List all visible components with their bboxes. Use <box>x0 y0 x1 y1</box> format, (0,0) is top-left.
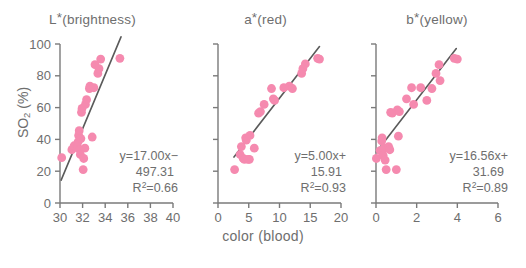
data-point <box>315 55 324 64</box>
data-point <box>267 84 276 93</box>
data-point <box>245 155 254 164</box>
data-point <box>409 100 418 109</box>
data-point <box>115 54 124 63</box>
x-axis-tick-label: 5 <box>245 210 252 225</box>
x-axis-tick-label: 0 <box>214 210 221 225</box>
x-axis-label: color (blood) <box>0 228 526 244</box>
equation-line-2: 31.69 <box>473 165 504 179</box>
x-axis-tick-label: 30 <box>53 210 67 225</box>
x-axis-tick-label: 2 <box>413 210 420 225</box>
data-point <box>80 144 89 153</box>
y-axis-tick-label: 40 <box>37 132 51 147</box>
data-point <box>382 165 391 174</box>
data-point <box>246 131 255 140</box>
x-axis-tick-label: 15 <box>303 210 317 225</box>
r-squared-label: R2=0.93 <box>301 180 346 195</box>
data-point <box>422 96 431 105</box>
data-point <box>416 83 425 92</box>
data-point <box>453 55 462 64</box>
x-axis-tick-label: 38 <box>143 210 157 225</box>
y-axis-tick-label: 0 <box>44 196 51 211</box>
x-axis-tick-label: 32 <box>75 210 89 225</box>
x-axis-tick-label: 4 <box>454 210 461 225</box>
data-point <box>381 156 390 165</box>
data-point <box>435 60 444 69</box>
data-point <box>428 84 437 93</box>
data-point <box>394 132 403 141</box>
y-axis-tick-label: 80 <box>37 68 51 83</box>
r-squared-label: R2=0.66 <box>133 180 178 195</box>
data-point <box>79 165 88 174</box>
x-axis-tick-label: 0 <box>372 210 379 225</box>
data-point <box>402 94 411 103</box>
data-point <box>77 134 86 143</box>
y-axis-tick-label: 100 <box>29 37 51 52</box>
x-axis-tick-label: 34 <box>98 210 112 225</box>
x-axis-tick-label: 36 <box>121 210 135 225</box>
y-axis-tick-label: 60 <box>37 100 51 115</box>
regression-line <box>61 37 121 180</box>
data-point <box>260 100 269 109</box>
data-point <box>75 126 84 135</box>
data-point <box>79 154 88 163</box>
data-point <box>88 133 97 142</box>
data-point <box>57 153 66 162</box>
x-axis-tick-label: 20 <box>334 210 348 225</box>
data-point <box>270 96 279 105</box>
equation-line-1: y=5.00x+ <box>295 149 346 163</box>
x-axis-tick-label: 10 <box>272 210 286 225</box>
data-point <box>392 165 401 174</box>
r-squared-label: R2=0.89 <box>463 180 508 195</box>
x-axis-tick-label: 6 <box>494 210 501 225</box>
data-point <box>96 55 105 64</box>
equation-line-1: y=16.56x+ <box>450 149 508 163</box>
data-point <box>436 76 445 85</box>
data-point <box>395 107 404 116</box>
regression-line <box>376 49 456 152</box>
equation-line-1: y=17.00x− <box>120 149 178 163</box>
data-point <box>90 83 99 92</box>
data-point <box>407 83 416 92</box>
data-point <box>230 165 239 174</box>
equation-line-2: 497.31 <box>136 165 174 179</box>
data-point <box>288 84 297 93</box>
figure-container: SO2 (%) L*(brightness) 02040608010030323… <box>0 0 526 268</box>
data-point <box>301 59 310 68</box>
y-axis-tick-label: 20 <box>37 164 51 179</box>
data-point <box>250 144 259 153</box>
data-point <box>385 145 394 154</box>
data-point <box>378 133 387 142</box>
data-point <box>95 64 104 73</box>
equation-line-2: 15.91 <box>311 165 342 179</box>
data-point <box>82 95 91 104</box>
